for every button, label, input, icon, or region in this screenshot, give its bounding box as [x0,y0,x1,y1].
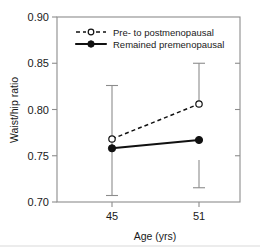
series-line-pre-to-postmenopausal [112,104,199,139]
y-axis-ticks-right [235,63,240,156]
y-tick-label-0-90: 0.90 [28,11,49,23]
datapoint-premeno-age-51 [195,136,202,143]
y-tick-label-0-80: 0.80 [28,104,49,116]
x-axis-title: Age (yrs) [134,230,177,242]
errorbar-age-51-upper [193,63,205,104]
y-axis-ticks [52,17,57,202]
legend-swatch-dashed [76,29,106,35]
legend-label-remained-premenopausal: Remained premenopausal [113,39,224,50]
y-tick-label-0-70: 0.70 [28,196,49,208]
y-axis-title: Waist/hip ratio [8,77,20,143]
chart-figure: 0.90 0.85 0.80 0.75 0.70 45 51 Age (yrs)… [0,0,260,251]
chart-legend: Pre- to postmenopausal Remained premenop… [76,27,224,50]
series-line-remained-premenopausal [112,140,199,148]
y-tick-label-0-75: 0.75 [28,150,49,162]
x-tick-label-45: 45 [106,210,118,222]
y-tick-label-0-85: 0.85 [28,57,49,69]
legend-swatch-solid [76,41,106,47]
legend-label-pre-to-postmenopausal: Pre- to postmenopausal [113,27,214,38]
x-axis-ticks [112,202,199,207]
datapoint-pre-post-age-51 [196,101,202,107]
errorbar-age-51-lower [193,160,205,188]
datapoint-premeno-age-45 [108,145,115,152]
x-tick-label-51: 51 [193,210,205,222]
datapoint-pre-post-age-45 [109,136,115,142]
waist-hip-ratio-line-chart: 0.90 0.85 0.80 0.75 0.70 45 51 Age (yrs)… [0,0,260,251]
